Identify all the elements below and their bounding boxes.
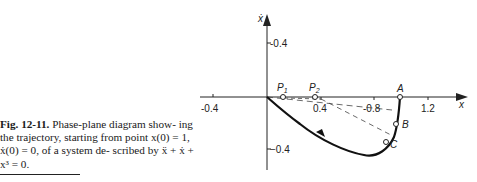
x-tick-04: 0.4	[313, 103, 327, 114]
label-p2: P2	[309, 82, 320, 94]
x-tick-12: 1.2	[421, 103, 435, 114]
point-p1	[281, 95, 286, 100]
y-tick-neg04: −0.4	[270, 144, 290, 155]
label-b: B	[402, 119, 409, 130]
label-p1: P1	[277, 82, 288, 94]
x-tick-neg04: -0.4	[201, 103, 219, 114]
point-a	[398, 95, 403, 100]
phase-plane-chart: -0.4 0.4 -0.8 1.2 -0.4 −0.4 x ẋ P1 P2 A …	[0, 0, 477, 182]
y-tick-04: -0.4	[270, 38, 288, 49]
point-c	[384, 140, 389, 145]
label-a: A	[396, 83, 404, 94]
label-c: C	[390, 139, 398, 150]
x-axis-label: x	[458, 99, 465, 110]
y-axis-arrow-icon	[263, 14, 271, 26]
point-b	[394, 122, 399, 127]
y-axis-label: ẋ	[257, 13, 264, 24]
dashed-line-2	[321, 99, 391, 135]
point-p2	[313, 95, 318, 100]
